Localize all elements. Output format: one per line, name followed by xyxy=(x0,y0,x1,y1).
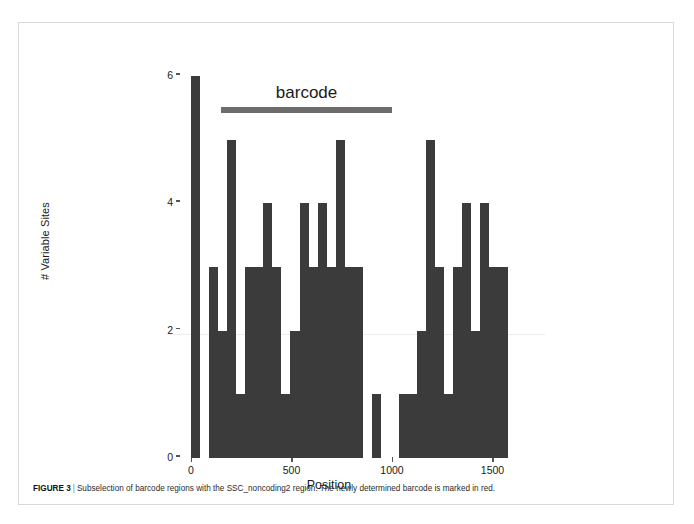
bar xyxy=(399,394,408,458)
bar xyxy=(245,267,254,458)
bar xyxy=(453,267,462,458)
bar xyxy=(408,394,417,458)
bar xyxy=(499,267,508,458)
bar xyxy=(236,394,245,458)
bar xyxy=(462,203,471,458)
bar xyxy=(354,267,363,458)
caption-separator: | xyxy=(73,484,75,493)
bar xyxy=(209,267,218,458)
bar xyxy=(345,267,354,458)
bar xyxy=(489,267,498,458)
bar xyxy=(336,140,345,458)
bar xyxy=(281,394,290,458)
bar xyxy=(272,267,281,458)
bar xyxy=(471,331,480,458)
bar xyxy=(254,267,263,458)
figure-card: # Variable Sites Position 0246 050010001… xyxy=(18,22,674,505)
bar xyxy=(435,267,444,458)
bar xyxy=(300,203,309,458)
bar xyxy=(227,140,236,458)
bar xyxy=(309,267,318,458)
bar xyxy=(327,267,336,458)
bar xyxy=(290,331,299,458)
bar xyxy=(191,76,200,458)
figure-caption: FIGURE 3|Subselection of barcode regions… xyxy=(19,475,675,505)
bar xyxy=(480,203,489,458)
chart-plot-area: # Variable Sites Position 0246 050010001… xyxy=(19,23,675,475)
bar xyxy=(444,394,453,458)
figure-number: FIGURE 3 xyxy=(33,484,71,493)
bar xyxy=(263,203,272,458)
bar xyxy=(426,140,435,458)
barcode-range-marker xyxy=(221,107,392,113)
caption-text: Subselection of barcode regions with the… xyxy=(77,484,495,493)
barcode-annotation-label: barcode xyxy=(221,83,392,103)
bar xyxy=(218,331,227,458)
bar xyxy=(318,203,327,458)
bar xyxy=(372,394,381,458)
bar xyxy=(417,331,426,458)
